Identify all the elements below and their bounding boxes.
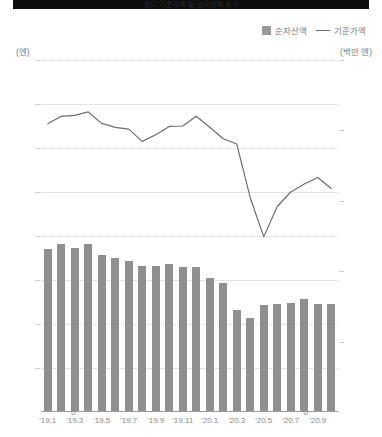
x-tick-label: '19.1 [39,416,56,425]
chart-title: 펀드 기준가액 및 순자산액 추이 [13,0,369,9]
y-tick-mark-left [35,148,40,149]
y-tick-mark-right [339,60,344,61]
legend-item-nav: 기준가액 [316,24,366,36]
chart-plot-area: 8,0007,0006,0005,0004,0003,0002,0001,000… [41,60,338,412]
x-tick-label: '20.9 [309,416,326,425]
legend-label-nav: 기준가액 [334,24,366,36]
title-banner: 펀드 기준가액 및 순자산액 추이 [13,0,369,9]
y-tick-mark-left [35,280,40,281]
x-tick-label: '19.9 [147,416,164,425]
y-tick-mark-left [35,192,40,193]
y-tick-mark-left [35,104,40,105]
y-tick-mark-left [35,368,40,369]
x-tick-label: '20.1 [201,416,218,425]
y-tick-mark-left [35,60,40,61]
legend-line-icon [316,30,330,31]
left-axis-unit: (엔) [16,45,30,57]
x-tick-label: '19.7 [120,416,137,425]
right-axis-unit: (백만 엔) [340,45,372,57]
legend-label-netassets: 순자산액 [275,24,307,36]
y-tick-mark-right [339,271,344,272]
x-tick-label: '19.11 [172,416,193,425]
line-series-nav [41,60,338,412]
legend-item-netassets: 순자산액 [262,24,307,36]
x-tick-label: '20.3 [228,416,245,425]
y-tick-mark-left [35,236,40,237]
x-tick-label: '19.5 [93,416,110,425]
y-tick-mark-left [35,324,40,325]
x-axis-baseline [41,411,338,412]
chart-legend: 순자산액 기준가액 [262,24,366,36]
x-tick-label: '19.3 [66,416,83,425]
legend-square-icon [262,26,271,35]
x-tick-label: '20.5 [255,416,272,425]
x-axis-labels: '19.1'19.3'19.5'19.7'19.9'19.11'20.1'20.… [41,416,338,430]
y-tick-mark-right [339,201,344,202]
y-tick-mark-right [339,130,344,131]
x-tick-label: '20.7 [282,416,299,425]
y-tick-mark-right [339,342,344,343]
